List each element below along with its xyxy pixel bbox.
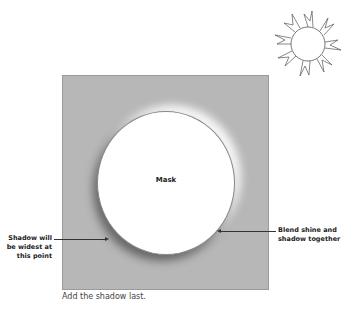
mask-label: Mask	[146, 176, 186, 184]
sun-icon	[272, 8, 344, 78]
callout-line: Blend shine and	[278, 226, 355, 235]
callout-line: be widest at	[0, 243, 52, 252]
arrowhead-right-icon	[105, 237, 109, 241]
caption: Add the shadow last.	[62, 292, 146, 301]
callout-line: Shadow will	[0, 234, 52, 243]
callout-line: this point	[0, 252, 52, 261]
shadow-callout: Shadow will be widest at this point	[0, 234, 52, 261]
arrowhead-left-icon	[217, 229, 221, 233]
blend-leader-line	[221, 231, 276, 232]
shadow-leader-line	[54, 239, 105, 240]
callout-line: shadow together	[278, 235, 355, 244]
blend-callout: Blend shine and shadow together	[278, 226, 355, 244]
